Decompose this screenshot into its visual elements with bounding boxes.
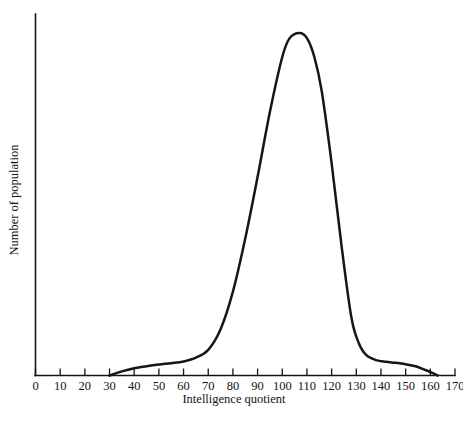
x-tick-label: 110 [298, 379, 316, 393]
x-tick-label: 170 [446, 379, 463, 393]
iq-distribution-chart: 0102030405060708090100110120130140150160… [0, 0, 463, 424]
x-tick-label: 150 [396, 379, 415, 393]
x-tick-label: 90 [251, 379, 264, 393]
x-tick-label: 0 [32, 379, 38, 393]
x-axis-tick-marks [36, 369, 456, 376]
x-tick-label: 100 [273, 379, 292, 393]
x-tick-label: 140 [372, 379, 391, 393]
x-tick-label: 40 [128, 379, 141, 393]
x-tick-label: 160 [421, 379, 440, 393]
x-axis-title: Intelligence quotient [182, 392, 286, 406]
x-tick-label: 80 [227, 379, 240, 393]
x-tick-label: 60 [177, 379, 190, 393]
x-axis-tick-labels: 0102030405060708090100110120130140150160… [32, 379, 463, 393]
figure-container: 0102030405060708090100110120130140150160… [0, 0, 463, 424]
y-axis-title: Number of population [7, 144, 21, 256]
x-tick-label: 30 [103, 379, 116, 393]
x-tick-label: 50 [153, 379, 166, 393]
x-tick-label: 120 [322, 379, 341, 393]
x-tick-label: 20 [79, 379, 92, 393]
x-tick-label: 130 [347, 379, 366, 393]
x-tick-label: 10 [54, 379, 67, 393]
distribution-curve [110, 33, 438, 376]
x-tick-label: 70 [202, 379, 215, 393]
